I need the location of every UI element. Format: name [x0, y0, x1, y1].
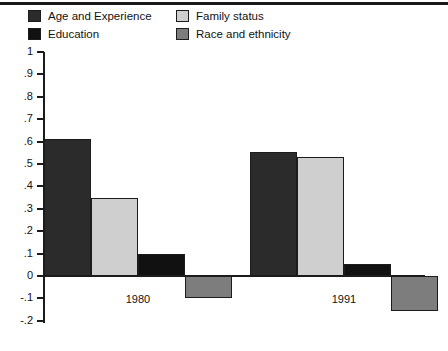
legend-item-family-status: Family status: [176, 8, 291, 23]
legend-swatch-age-and-experience: [28, 10, 41, 22]
legend-label-family-status: Family status: [196, 10, 264, 22]
legend-label-age-and-experience: Age and Experience: [48, 10, 152, 22]
bar-1991-age-and-experience: [250, 152, 297, 276]
legend-swatch-education: [28, 28, 41, 40]
legend-item-education: Education: [28, 26, 152, 41]
legend-label-race-and-ethnicity: Race and ethnicity: [196, 28, 291, 40]
bar-1980-education: [138, 254, 185, 276]
bar-series-container: [0, 44, 448, 351]
legend-item-race-and-ethnicity: Race and ethnicity: [176, 26, 291, 41]
legend-column-left: Age and Experience Education: [28, 8, 152, 44]
bar-1980-family-status: [91, 198, 138, 276]
bar-1991-education: [344, 264, 391, 276]
bar-1991-family-status: [297, 157, 344, 276]
bar-1980-race-and-ethnicity: [185, 276, 232, 298]
chart-plot-area: 1.9.8.7.6.5.4.3.2.10-.1-.2 19801991: [0, 44, 448, 351]
legend-label-education: Education: [48, 28, 99, 40]
x-axis-label-1991: 1991: [314, 294, 374, 305]
legend-column-right: Family status Race and ethnicity: [176, 8, 291, 44]
bar-1991-race-and-ethnicity: [391, 276, 438, 311]
bar-1980-age-and-experience: [44, 139, 91, 276]
chart-legend: Age and Experience Education Family stat…: [0, 8, 448, 42]
legend-swatch-family-status: [176, 10, 189, 22]
legend-item-age-and-experience: Age and Experience: [28, 8, 152, 23]
x-axis-label-1980: 1980: [108, 294, 168, 305]
header-divider: [0, 2, 448, 5]
legend-swatch-race-and-ethnicity: [176, 28, 189, 40]
